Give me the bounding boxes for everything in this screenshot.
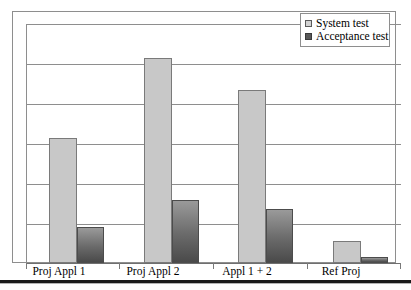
bar-acceptance-ref-proj[interactable]	[361, 257, 388, 263]
chart-legend: System test Acceptance test	[300, 13, 390, 47]
x-axis-label-appl-1-2: Appl 1 + 2	[200, 265, 294, 277]
plot-area	[26, 24, 401, 263]
chart-plot-frame: System test Acceptance test	[12, 11, 396, 263]
legend-label-acceptance-test: Acceptance test	[316, 30, 388, 43]
bar-system-proj-appl-2[interactable]	[144, 58, 172, 263]
gridline-1	[26, 224, 401, 225]
chart-figure: System test Acceptance test Proj Appl 1 …	[0, 0, 411, 290]
gridline-5	[26, 64, 401, 65]
bar-acceptance-proj-appl-1[interactable]	[77, 227, 104, 263]
legend-item-acceptance-test[interactable]: Acceptance test	[305, 30, 384, 43]
x-axis-label-proj-appl-1: Proj Appl 1	[12, 265, 106, 277]
bar-acceptance-proj-appl-2[interactable]	[172, 200, 199, 263]
gridline-2	[26, 184, 401, 185]
x-axis-label-ref-proj: Ref Proj	[294, 265, 388, 277]
gridline-3	[26, 144, 401, 145]
legend-swatch-system-icon	[305, 20, 312, 27]
legend-label-system-test: System test	[316, 17, 369, 30]
legend-swatch-acceptance-icon	[305, 33, 312, 40]
bar-system-appl-1-2[interactable]	[238, 90, 266, 263]
legend-item-system-test[interactable]: System test	[305, 17, 384, 30]
y-axis-line	[26, 24, 27, 264]
footer-divider-shadow	[0, 283, 411, 284]
bar-system-proj-appl-1[interactable]	[49, 138, 77, 263]
bar-acceptance-appl-1-2[interactable]	[266, 209, 293, 263]
x-tick-4	[400, 263, 401, 269]
bar-system-ref-proj[interactable]	[333, 241, 361, 263]
x-axis-label-proj-appl-2: Proj Appl 2	[106, 265, 200, 277]
gridline-4	[26, 104, 401, 105]
